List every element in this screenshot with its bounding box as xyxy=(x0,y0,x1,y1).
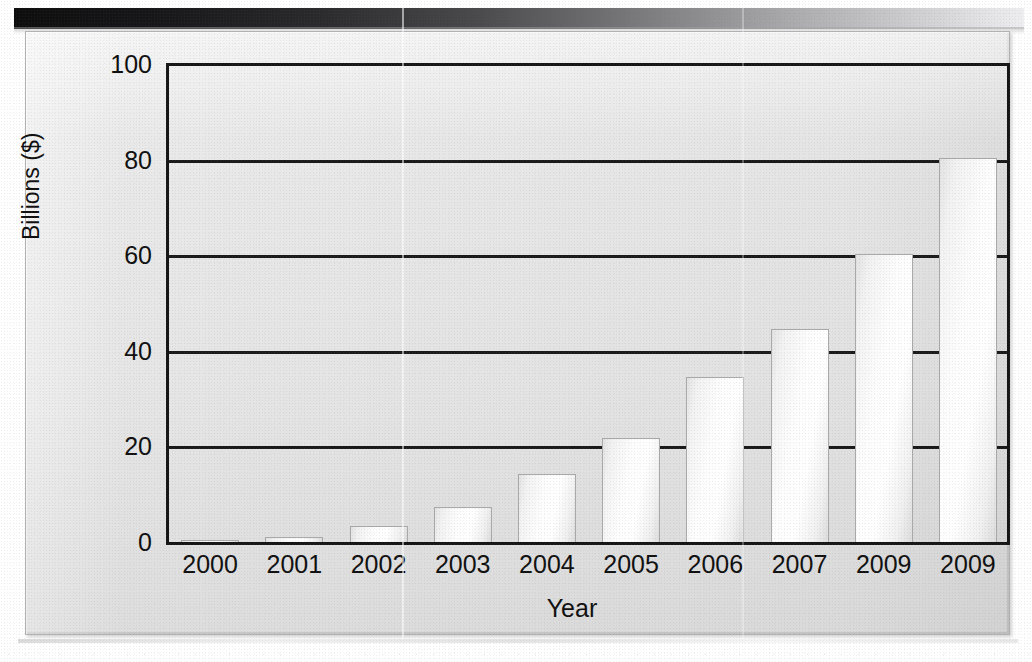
bar xyxy=(939,158,997,543)
scan-edge-band xyxy=(14,8,1024,29)
plot-inner xyxy=(168,65,1010,543)
y-axis-tick-label: 60 xyxy=(72,243,152,268)
y-axis-tick-label: 40 xyxy=(72,339,152,364)
x-axis-tick-label: 2007 xyxy=(755,552,845,577)
x-axis-tick-label: 2001 xyxy=(249,552,339,577)
x-axis-title: Year xyxy=(547,594,598,623)
x-axis-tick-label: 2009 xyxy=(923,552,1013,577)
y-axis-line xyxy=(166,63,169,545)
scanned-page: Billions ($) 020406080100 20002001200220… xyxy=(0,0,1032,662)
y-axis-tick-label: 100 xyxy=(72,52,152,77)
y-axis-tick-label: 20 xyxy=(72,434,152,459)
x-axis-line xyxy=(166,542,1010,545)
x-axis-tick-label: 2005 xyxy=(586,552,676,577)
plot-area xyxy=(168,65,1010,543)
x-axis-tick-label: 2004 xyxy=(502,552,592,577)
axis-top-line xyxy=(166,63,1010,66)
bar xyxy=(434,507,492,543)
x-axis-tick-label: 2003 xyxy=(418,552,508,577)
scan-bottom-smear xyxy=(18,639,1018,643)
x-axis-tick-label: 2006 xyxy=(670,552,760,577)
x-axis-tick-label: 2009 xyxy=(839,552,929,577)
y-axis-tick-label: 0 xyxy=(72,530,152,555)
gridline xyxy=(168,160,1010,163)
bar xyxy=(602,438,660,543)
bar xyxy=(350,526,408,543)
bar xyxy=(771,329,829,543)
scan-bottom-specks xyxy=(0,650,1032,662)
axis-right-line xyxy=(1007,63,1010,545)
bar xyxy=(518,474,576,543)
bar xyxy=(855,254,913,543)
x-axis-tick-label: 2002 xyxy=(334,552,424,577)
y-axis-tick-label: 80 xyxy=(72,148,152,173)
x-axis-tick-label: 2000 xyxy=(165,552,255,577)
y-axis-title: Billions ($) xyxy=(18,133,45,240)
x-axis-title-wrap: Year xyxy=(0,594,1032,623)
bar xyxy=(686,377,744,543)
